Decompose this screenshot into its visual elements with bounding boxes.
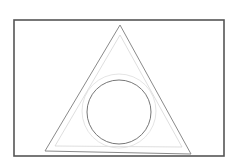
background bbox=[0, 0, 237, 164]
triangle-circle-diagram bbox=[0, 0, 237, 164]
